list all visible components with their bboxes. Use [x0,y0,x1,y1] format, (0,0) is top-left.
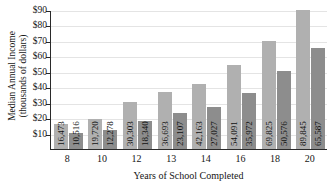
y-axis-tick-label: $70 [7,37,47,47]
y-axis-tick-label: $50 [7,68,47,78]
bar-value-label: 65,587 [314,121,323,146]
bar-value-label: 69,825 [264,121,273,146]
y-axis-tick-label: $20 [7,114,47,124]
bar-value-label: 30,303 [126,121,135,146]
bar-value-label: 27,027 [210,121,219,146]
bar-group: 42,16327,027 [192,10,221,149]
bar-value-label: 35,972 [245,121,254,146]
bar-value-label: 36,693 [160,121,169,146]
bar: 36,693 [158,92,172,149]
bar: 23,107 [173,113,187,149]
bar-value-label: 23,107 [175,121,184,146]
plot-area: 16,47310,51619,72012,27830,30318,34036,6… [50,11,327,150]
bar-group: 54,09135,972 [227,10,256,149]
x-axis-tick-label: 20 [290,154,329,164]
bar: 18,340 [138,121,152,149]
bar-group: 16,47310,516 [54,10,83,149]
bar: 30,303 [123,102,137,149]
bar-value-label: 54,091 [230,121,239,146]
x-axis-title: Years of School Completed [50,170,327,181]
bar: 16,473 [54,124,68,149]
bar-chart: Median Annual Income (thousands of dolla… [0,0,329,185]
bar-group: 36,69323,107 [158,10,187,149]
bar: 19,720 [88,119,102,149]
bar: 69,825 [262,41,276,149]
y-axis-tick-label: $90 [7,6,47,16]
bar-value-label: 50,576 [279,121,288,146]
bar-group: 69,82550,576 [262,10,291,149]
bar-group: 89,84565,587 [296,10,325,149]
bar: 10,516 [69,133,83,149]
bar: 12,278 [103,130,117,149]
bar: 50,576 [277,71,291,149]
bar: 42,163 [192,84,206,149]
bar-value-label: 16,473 [56,121,65,146]
bar: 54,091 [227,65,241,149]
y-axis-tick-label: $30 [7,99,47,109]
bar-value-label: 18,340 [141,121,150,146]
bar-value-label: 10,516 [71,121,80,146]
bar-group: 19,72012,278 [88,10,117,149]
y-axis-tick-label: $10 [7,130,47,140]
bar: 35,972 [242,93,256,149]
bar-value-label: 89,845 [299,121,308,146]
y-axis-tick-label: $60 [7,52,47,62]
bar-value-label: 12,278 [106,121,115,146]
bar: 89,845 [296,10,310,149]
bar-group: 30,30318,340 [123,10,152,149]
y-axis-tick-label: $40 [7,83,47,93]
bar: 65,587 [311,48,325,149]
bar-value-label: 42,163 [195,121,204,146]
y-axis-tick-label: $80 [7,21,47,31]
bar-value-label: 19,720 [91,121,100,146]
bar: 27,027 [207,107,221,149]
